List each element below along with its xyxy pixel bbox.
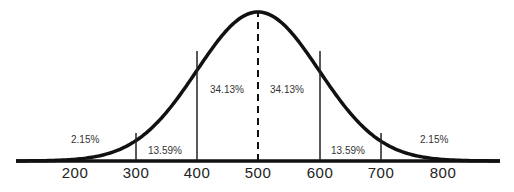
x-tick-600: 600 [307, 164, 334, 181]
pct-left-tail: 2.15% [71, 134, 99, 145]
x-tick-300: 300 [123, 164, 150, 181]
x-tick-800: 800 [430, 164, 457, 181]
x-tick-500: 500 [245, 164, 272, 181]
x-tick-400: 400 [184, 164, 211, 181]
pct-right-mid: 13.59% [331, 145, 365, 156]
pct-left-mid: 13.59% [148, 145, 182, 156]
x-tick-200: 200 [62, 164, 89, 181]
pct-right-center: 34.13% [270, 84, 304, 95]
pct-right-tail: 2.15% [420, 134, 448, 145]
x-tick-700: 700 [368, 164, 395, 181]
pct-left-center: 34.13% [210, 84, 244, 95]
